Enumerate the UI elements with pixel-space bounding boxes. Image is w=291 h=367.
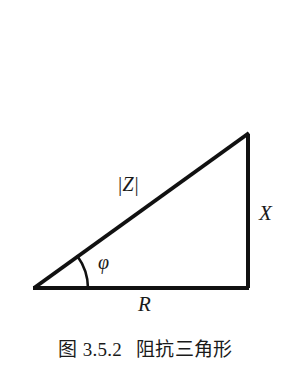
caption-number: 图 3.5.2 — [58, 339, 122, 360]
label-reactance: X — [259, 203, 272, 224]
label-phase-angle: φ — [98, 252, 109, 272]
label-resistance: R — [138, 294, 151, 315]
figure-page: |Z| X R φ 图 3.5.2阻抗三角形 — [0, 0, 291, 367]
label-impedance-magnitude: |Z| — [117, 174, 139, 194]
figure-caption: 图 3.5.2阻抗三角形 — [0, 334, 291, 361]
triangle-hypotenuse-line — [34, 133, 249, 288]
caption-title: 阻抗三角形 — [136, 339, 233, 360]
angle-arc — [78, 256, 89, 288]
